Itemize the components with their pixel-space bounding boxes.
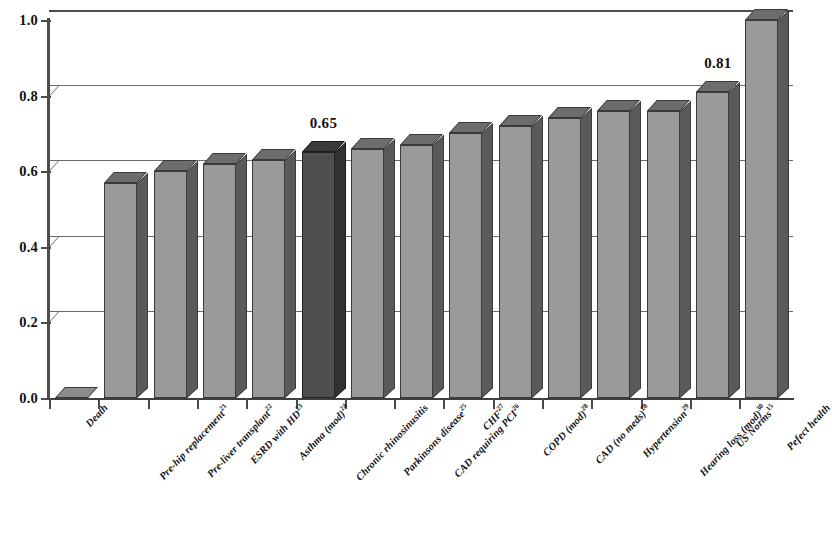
- bar-front-face: [745, 20, 778, 398]
- bar: [647, 111, 680, 398]
- bar: [696, 92, 729, 398]
- bar-front-face: [351, 149, 384, 398]
- bar: [548, 118, 581, 398]
- bar: [449, 133, 482, 398]
- bar-front-face: [449, 133, 482, 398]
- bar: [302, 152, 335, 398]
- bar-front-face: [104, 183, 137, 398]
- bar-side-face: [482, 124, 493, 398]
- bar: [154, 171, 187, 398]
- bar-side-face: [187, 161, 198, 398]
- x-axis-category-labels: DeathPre-hip replacement21Pre-liver tran…: [0, 402, 811, 540]
- bar: [351, 149, 384, 398]
- x-axis-category-label: Chronic rhinosinusitis: [354, 402, 430, 483]
- bar-front-face: [597, 111, 630, 398]
- bar-side-face: [285, 150, 296, 398]
- x-axis-line: [47, 398, 794, 400]
- bar: [597, 111, 630, 398]
- bar-side-face: [137, 173, 148, 398]
- bar-front-face: [400, 145, 433, 398]
- bar-side-face: [680, 101, 691, 398]
- bar-side-face: [778, 10, 789, 398]
- bar: [252, 160, 285, 398]
- bar: [499, 126, 532, 398]
- bar-side-face: [581, 108, 592, 398]
- data-value-label: 0.65: [310, 115, 337, 132]
- bar-side-face: [384, 139, 395, 398]
- bar-floor-plate: [55, 387, 98, 398]
- bar: [400, 145, 433, 398]
- bar-front-face: [499, 126, 532, 398]
- bar-side-face: [532, 116, 543, 398]
- bar-front-face: [252, 160, 285, 398]
- bar: [203, 164, 236, 398]
- x-axis-category-label: Pefect health: [784, 402, 832, 452]
- category-label-text: Death: [84, 402, 110, 429]
- x-axis-category-label: Death: [84, 402, 110, 429]
- category-label-text: Chronic rhinosinusitis: [354, 402, 430, 483]
- bar: [104, 183, 137, 398]
- bar-side-face: [729, 82, 740, 398]
- bar-side-face: [236, 154, 247, 398]
- bar-front-face: [154, 171, 187, 398]
- category-label-text: COPD (mod): [541, 408, 589, 458]
- x-axis-category-label: COPD (mod)28: [540, 402, 594, 458]
- data-value-label: 0.81: [704, 55, 731, 72]
- category-label-text: Pefect health: [784, 402, 832, 452]
- bar-front-face: [203, 164, 236, 398]
- category-label-text: Asthma (mod): [296, 408, 347, 461]
- bar-front-face: [302, 152, 335, 398]
- bar: [745, 20, 778, 398]
- bar-side-face: [630, 101, 641, 398]
- bar-front-face: [647, 111, 680, 398]
- bar-front-face: [548, 118, 581, 398]
- bar-side-face: [433, 135, 444, 398]
- category-label-text: CAD (no meds): [594, 408, 649, 466]
- bar-side-face: [335, 142, 346, 398]
- bar-front-face: [696, 92, 729, 398]
